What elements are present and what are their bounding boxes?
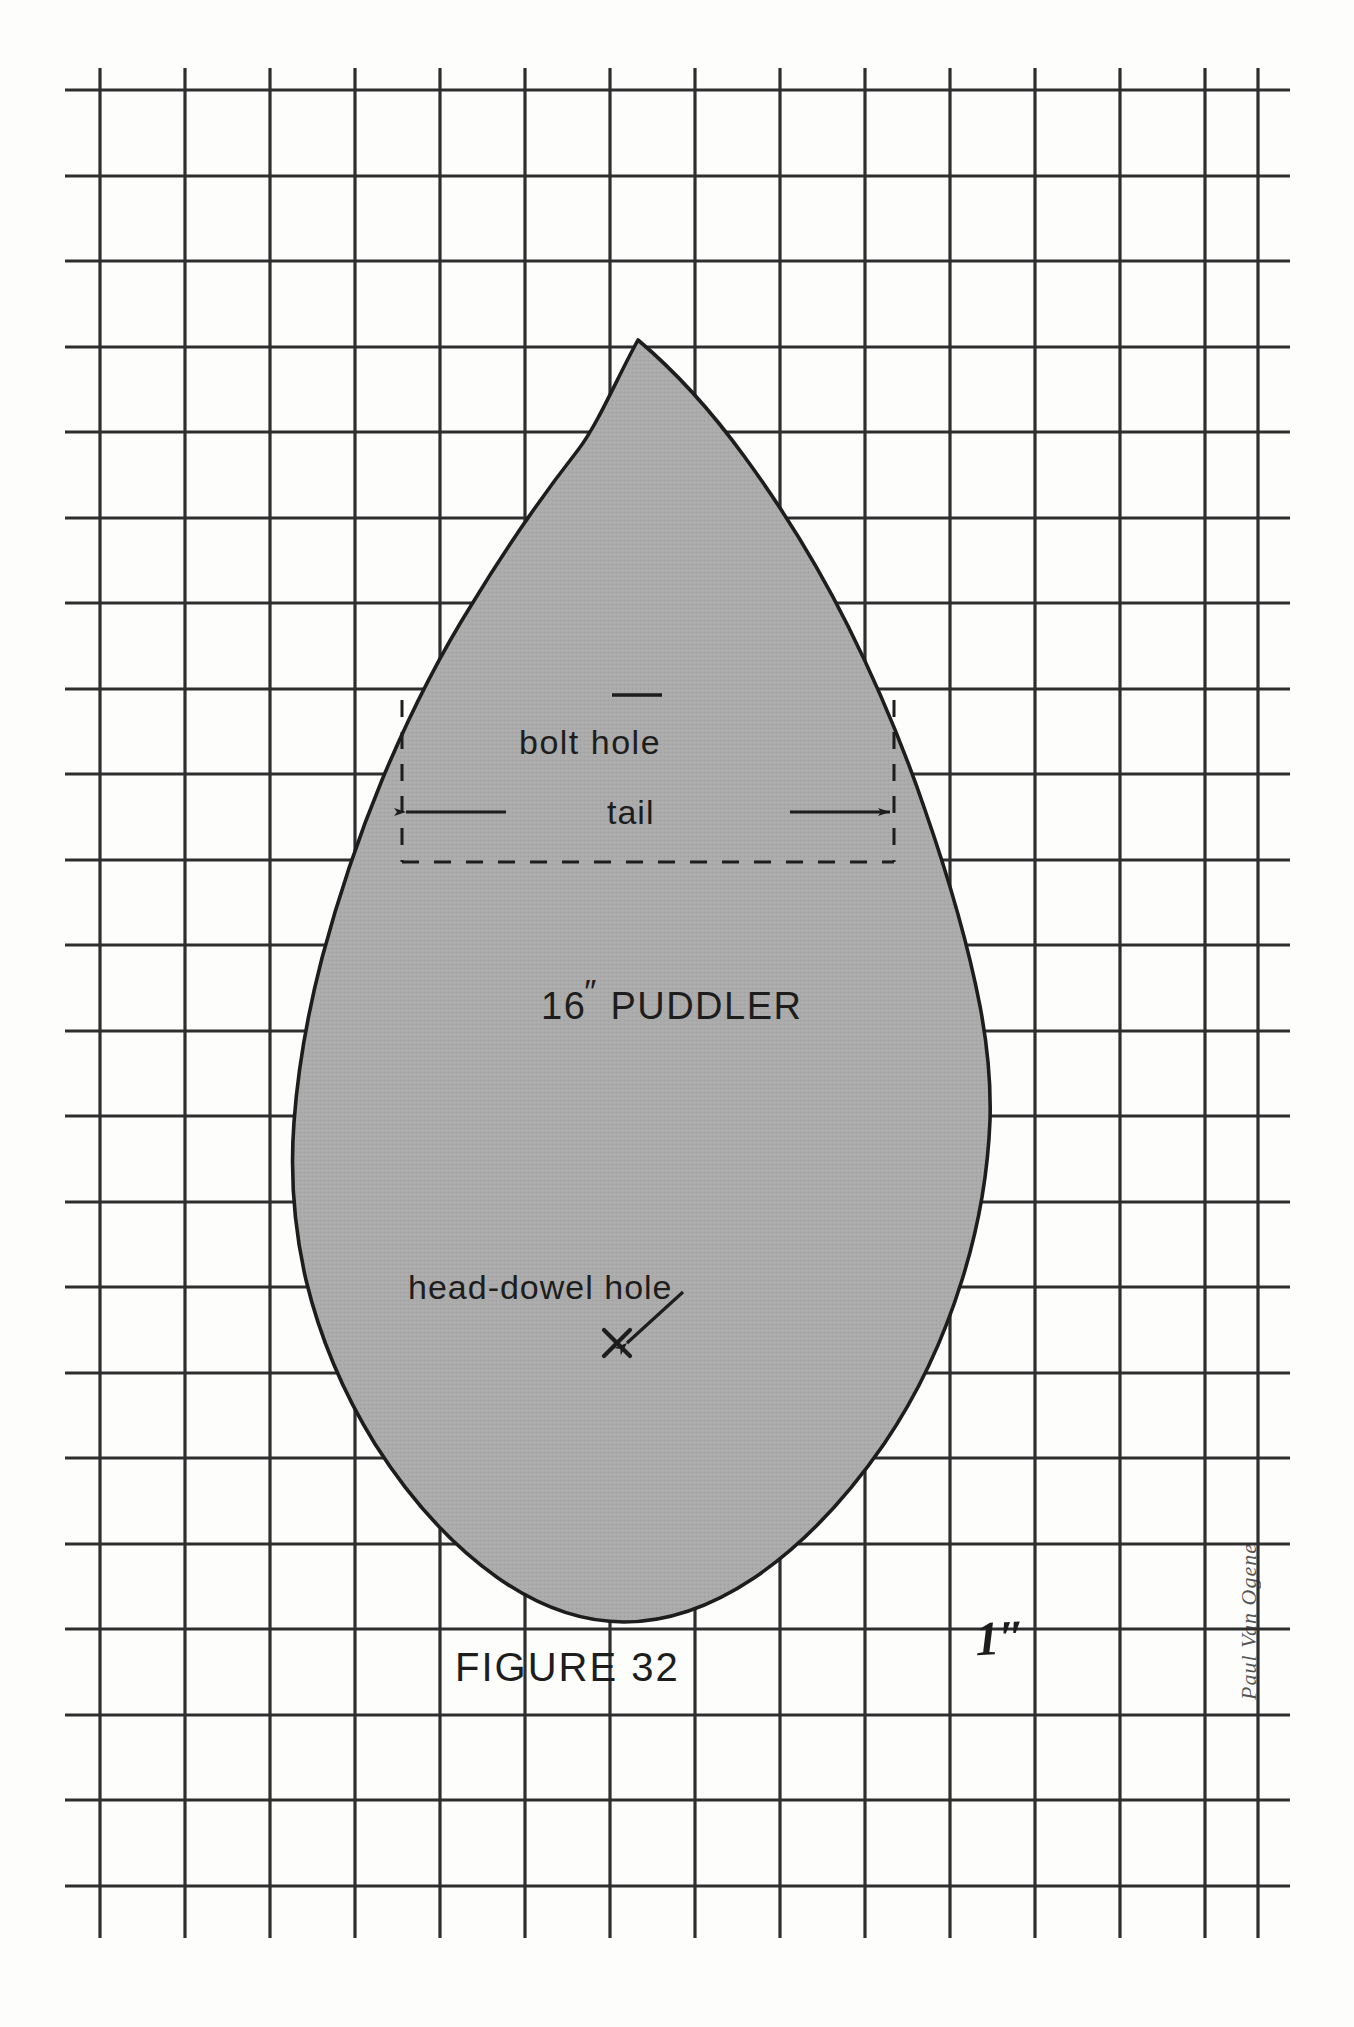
scale-marker-label: 1″ bbox=[974, 1609, 1027, 1667]
artist-signature: Paul Van Ogene bbox=[1236, 1543, 1262, 1700]
puddler-size-number: 16 bbox=[541, 985, 586, 1027]
bolt-hole-label: bolt hole bbox=[519, 723, 661, 762]
puddler-title-label: 16″ PUDDLER bbox=[541, 974, 802, 1028]
inch-symbol: ″ bbox=[584, 972, 596, 1010]
tail-label: tail bbox=[607, 793, 654, 832]
figure-caption: FIGURE 32 bbox=[455, 1645, 680, 1690]
puddler-title-rest: PUDDLER bbox=[598, 985, 802, 1027]
head-dowel-hole-label: head-dowel hole bbox=[408, 1268, 673, 1307]
screenshot-page: bolt hole tail 16″ PUDDLER head-dowel ho… bbox=[0, 0, 1354, 2027]
